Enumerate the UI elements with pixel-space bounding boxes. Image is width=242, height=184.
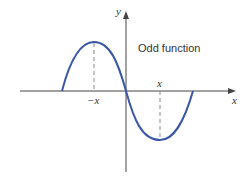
- diagram-title: Odd function: [138, 42, 200, 54]
- odd-function-diagram: y x −x x Odd function: [0, 0, 242, 184]
- x-axis-label: x: [231, 94, 237, 106]
- tick-label-positive-x: x: [156, 77, 162, 89]
- tick-label-negative-x: −x: [87, 94, 99, 106]
- y-axis-arrow-icon: [123, 11, 129, 19]
- y-axis-label: y: [115, 5, 121, 17]
